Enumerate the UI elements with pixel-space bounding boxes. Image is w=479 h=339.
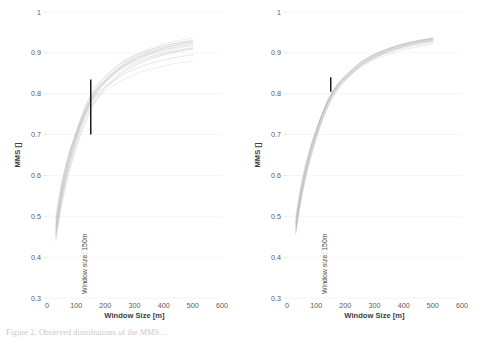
chart-panel-right: 0.30.40.50.60.70.80.91010020030040050060… bbox=[240, 0, 479, 320]
x-tick-label: 500 bbox=[427, 301, 439, 310]
chart-plot-right: 0.30.40.50.60.70.80.91010020030040050060… bbox=[240, 0, 479, 320]
y-tick-label: 0.3 bbox=[271, 294, 281, 303]
figure-container: 0.30.40.50.60.70.80.91010020030040050060… bbox=[0, 0, 479, 339]
window-size-marker-label: Window size: 150m bbox=[81, 233, 88, 294]
y-tick-label: 0.6 bbox=[31, 171, 41, 180]
figure-caption-text: Figure 2. Observed distributions of the … bbox=[0, 327, 479, 339]
y-tick-label: 1 bbox=[277, 8, 281, 17]
x-tick-label: 600 bbox=[216, 301, 228, 310]
y-tick-label: 0.8 bbox=[271, 89, 281, 98]
figure-caption: Figure 2. Observed distributions of the … bbox=[0, 327, 479, 339]
x-tick-label: 400 bbox=[398, 301, 410, 310]
y-tick-label: 0.4 bbox=[271, 253, 281, 262]
x-tick-label: 100 bbox=[70, 301, 82, 310]
y-tick-label: 0.4 bbox=[31, 253, 41, 262]
chart-plot-left: 0.30.40.50.60.70.80.91010020030040050060… bbox=[0, 0, 239, 320]
y-tick-label: 1 bbox=[37, 8, 41, 17]
y-tick-label: 0.8 bbox=[31, 89, 41, 98]
x-tick-label: 0 bbox=[285, 301, 289, 310]
x-axis-title: Window Size [m] bbox=[104, 311, 165, 320]
y-axis-title: MMS [] bbox=[13, 142, 22, 167]
y-axis-title: MMS [] bbox=[253, 142, 262, 167]
y-tick-label: 0.6 bbox=[271, 171, 281, 180]
x-tick-label: 0 bbox=[45, 301, 49, 310]
data-curve bbox=[56, 48, 193, 238]
x-tick-label: 500 bbox=[187, 301, 199, 310]
x-tick-label: 100 bbox=[310, 301, 322, 310]
chart-panel-left: 0.30.40.50.60.70.80.91010020030040050060… bbox=[0, 0, 239, 320]
y-tick-label: 0.9 bbox=[271, 48, 281, 57]
x-tick-label: 400 bbox=[158, 301, 170, 310]
y-tick-label: 0.5 bbox=[271, 212, 281, 221]
y-tick-label: 0.3 bbox=[31, 294, 41, 303]
x-tick-label: 200 bbox=[339, 301, 351, 310]
y-tick-label: 0.7 bbox=[31, 130, 41, 139]
data-curve bbox=[296, 39, 433, 229]
x-axis-title: Window Size [m] bbox=[344, 311, 405, 320]
y-tick-label: 0.5 bbox=[31, 212, 41, 221]
y-tick-label: 0.7 bbox=[271, 130, 281, 139]
x-tick-label: 600 bbox=[456, 301, 468, 310]
y-tick-label: 0.9 bbox=[31, 48, 41, 57]
data-curve bbox=[296, 41, 433, 233]
data-curve bbox=[56, 43, 193, 234]
x-tick-label: 300 bbox=[129, 301, 141, 310]
data-curve bbox=[296, 39, 433, 224]
x-tick-label: 300 bbox=[369, 301, 381, 310]
window-size-marker-label: Window size: 150m bbox=[321, 233, 328, 294]
x-tick-label: 200 bbox=[99, 301, 111, 310]
